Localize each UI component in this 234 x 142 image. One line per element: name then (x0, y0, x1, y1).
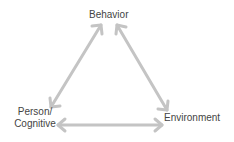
node-person-line1: Person/ (12, 106, 58, 118)
arrow-person-environment (58, 119, 162, 131)
node-person-line2: Cognitive (12, 118, 58, 130)
arrow-behavior-person (50, 25, 102, 107)
node-environment: Environment (164, 112, 220, 124)
node-person-cognitive: Person/ Cognitive (12, 106, 58, 130)
node-behavior: Behavior (89, 9, 128, 21)
arrow-behavior-environment (116, 25, 168, 110)
